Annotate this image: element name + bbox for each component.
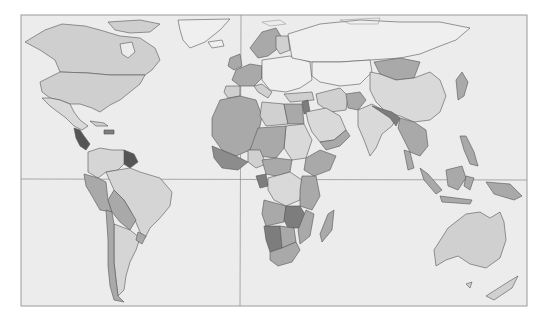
world-map-figure [0, 0, 547, 319]
region-haiti [104, 130, 114, 134]
choropleth-map [0, 0, 547, 319]
region-libya [260, 102, 288, 126]
